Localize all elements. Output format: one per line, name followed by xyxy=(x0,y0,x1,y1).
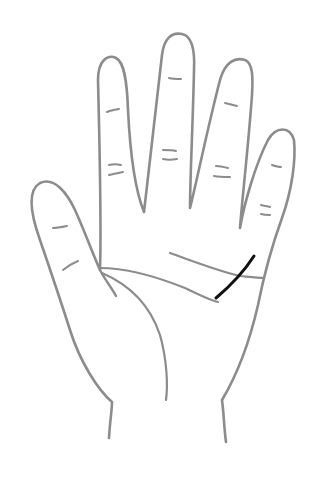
hand-outline xyxy=(32,34,295,442)
heart-line xyxy=(170,253,264,278)
palm-illustration xyxy=(0,0,318,477)
head-line xyxy=(100,268,218,302)
palm-diagram xyxy=(0,0,318,477)
life-line xyxy=(102,273,167,400)
